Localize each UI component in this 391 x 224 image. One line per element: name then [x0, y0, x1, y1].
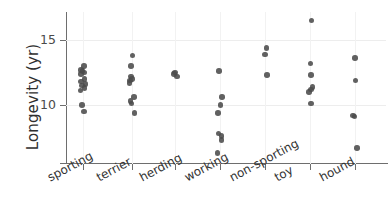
data-point — [354, 145, 360, 151]
x-tick-mark — [310, 164, 311, 170]
data-point — [264, 72, 270, 78]
data-point — [79, 102, 85, 108]
data-point — [352, 114, 358, 120]
data-point — [306, 89, 312, 95]
gridline-vertical — [132, 12, 133, 164]
data-point — [308, 72, 314, 78]
data-point — [353, 78, 359, 84]
data-point — [309, 18, 315, 24]
gridline-vertical — [175, 12, 176, 164]
data-point — [219, 94, 225, 100]
data-point — [308, 61, 314, 67]
x-tick-label-toy: toy — [272, 163, 295, 184]
data-point — [215, 110, 221, 116]
y-tick-label: 10 — [26, 97, 56, 112]
data-point — [218, 102, 224, 108]
data-point — [264, 45, 270, 51]
data-point — [127, 80, 133, 86]
gridline-horizontal — [66, 105, 386, 106]
data-point — [262, 52, 268, 58]
data-point — [216, 68, 222, 74]
y-tick-label: 15 — [26, 32, 56, 47]
data-point — [352, 55, 358, 61]
data-point — [132, 110, 138, 116]
gridline-vertical — [355, 12, 356, 164]
data-point — [128, 63, 134, 69]
data-point — [130, 53, 136, 59]
data-point — [219, 137, 225, 143]
data-point — [174, 74, 180, 80]
gridline-horizontal — [66, 40, 386, 41]
plot-area — [66, 12, 386, 164]
gridline-vertical — [265, 12, 266, 164]
data-point — [81, 109, 87, 115]
scatter-chart: Longevity (yr) 1015 sportingterrierherdi… — [0, 0, 391, 224]
